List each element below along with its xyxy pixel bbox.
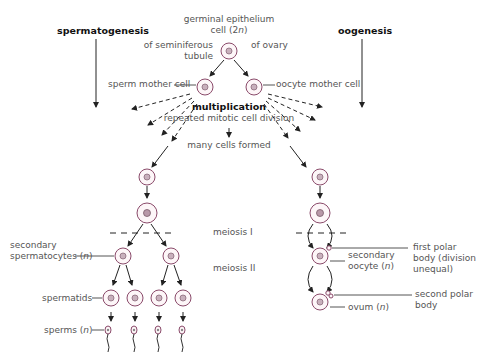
secondary-spermatocyte-1 (115, 248, 131, 264)
first-polar-body-label-2: body (division (413, 253, 476, 264)
multiplication-label: multiplication (179, 101, 279, 112)
second-polar-body-label-1: second polar (415, 289, 473, 300)
spermatids-label: spermatids (42, 293, 92, 304)
meiosis-2-label: meiosis II (213, 263, 255, 274)
first-polar-body (327, 246, 331, 250)
seminiferous-label-1: of seminiferous (130, 40, 213, 51)
secondary-oocyte-label-2: oocyte (n) (348, 261, 394, 272)
spermatid-4 (175, 290, 191, 306)
spermatid-1 (103, 290, 119, 306)
germinal-cell (221, 43, 237, 59)
secondary-spermatocyte-2 (163, 248, 179, 264)
ovum-label: ovum (n) (348, 302, 389, 313)
mitotic-label: repeated mitotic cell division (159, 113, 299, 124)
oogenesis-title: oogenesis (338, 25, 392, 36)
germinal-label-2: cell (2n) (179, 25, 279, 36)
sperms-label: sperms (n) (44, 325, 93, 336)
secondary-oocyte-cell (312, 248, 328, 264)
oogonium-cell (312, 169, 328, 185)
second-polar-body-label-2: body (415, 300, 437, 311)
germinal-label-1: germinal epithelium (179, 14, 279, 25)
secondary-spermatocytes-label-2: spermatocytes (n) (10, 251, 92, 262)
spermatid-2 (127, 290, 143, 306)
seminiferous-label-2: tubule (130, 51, 213, 62)
sperm-mother-cell (197, 79, 213, 95)
spermatid-3 (151, 290, 167, 306)
oocyte-mother-cell (246, 79, 262, 95)
primary-oocyte (310, 203, 330, 223)
sperm-mother-cell-label: sperm mother cell (108, 79, 190, 90)
spermatid-arrows (111, 312, 183, 321)
first-polar-body-label-1: first polar (413, 242, 456, 253)
sperms (105, 326, 185, 352)
many-cells-label: many cells formed (179, 140, 279, 151)
meiosis-1-label: meiosis I (213, 227, 253, 238)
ovary-label: of ovary (251, 40, 288, 51)
secondary-oocyte-label-1: secondary (348, 250, 395, 261)
spermatogonium-cell (139, 169, 155, 185)
primary-spermatocyte (137, 203, 157, 223)
spermatogenesis-title: spermatogenesis (57, 25, 149, 36)
first-polar-body-label-3: unequal) (413, 264, 453, 275)
ovum-cell (312, 294, 328, 310)
oocyte-mother-cell-label: oocyte mother cell (276, 79, 360, 90)
secondary-spermatocytes-label-1: secondary (10, 240, 57, 251)
diagram-canvas (0, 0, 481, 362)
